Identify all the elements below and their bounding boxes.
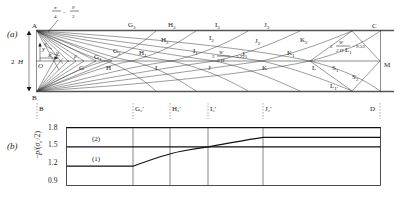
- node-I: I: [155, 64, 158, 72]
- ratio-right-num: W: [339, 40, 344, 45]
- svg-text:I2: I2: [209, 34, 214, 43]
- node-I3-sub: 3: [217, 25, 220, 30]
- svg-text:I1: I1: [193, 47, 198, 56]
- svg-text:S1: S1: [332, 64, 339, 73]
- y-axis-title: −p/(σe′/2): [33, 131, 43, 159]
- svg-text:K2: K2: [300, 36, 308, 45]
- node-row-3: G3 H3 I3 J3: [128, 21, 270, 30]
- node-J: J: [208, 64, 211, 72]
- svg-text:S2: S2: [352, 73, 359, 82]
- corner-label-M: M: [384, 61, 391, 69]
- origin-label-O: O: [38, 62, 43, 70]
- height-label-symbol: H: [17, 58, 24, 66]
- svg-text:J2: J2: [255, 37, 261, 46]
- node-S2-sub: 2: [356, 77, 359, 82]
- xtick-H2p: H₂′: [172, 105, 181, 113]
- svg-text:K1: K1: [287, 49, 295, 58]
- node-L2-sub: 1: [349, 50, 352, 55]
- ratio-right-den: 2 H: [336, 48, 344, 53]
- corner-label-B: B: [32, 94, 37, 102]
- apex-minus: −: [63, 10, 66, 15]
- plot-gridlines: [133, 128, 263, 186]
- svg-text:−p/(σe′/2): −p/(σe′/2): [33, 131, 43, 159]
- slip-line-field-diagram: 2 H y x O: [0, 0, 407, 110]
- series-1-label: (1): [92, 155, 101, 163]
- node-L1prime-mark: ′: [337, 86, 338, 91]
- axis-label-y: y: [41, 45, 46, 53]
- pressure-plot: B G₂′ H₂′ I₂′ J₂′ D 1.8 1.5 1.2 0.9 −p/(…: [0, 103, 407, 203]
- ytick-1-2: 1.2: [48, 158, 58, 167]
- node-H2-sub: 2: [166, 40, 169, 45]
- ylabel-half: /2): [33, 131, 42, 140]
- node-J2-sub: 2: [258, 41, 261, 46]
- node-K2-sub: 2: [305, 40, 308, 45]
- figure-root: (a) (b) 2 H y x O: [0, 0, 407, 203]
- apex-four: 4: [54, 14, 57, 19]
- node-S1-sub: 1: [336, 68, 339, 73]
- node-J1-sub: 1: [245, 54, 248, 59]
- ratio-mid-num: W: [219, 50, 224, 55]
- plot-frame: [67, 128, 381, 186]
- svg-text:I3: I3: [215, 21, 220, 30]
- ytick-0-9: 0.9: [48, 176, 58, 185]
- node-K: K: [262, 64, 267, 72]
- svg-text:J1: J1: [242, 50, 248, 59]
- apex-two: 2: [72, 14, 75, 19]
- svg-text:G2: G2: [113, 47, 121, 56]
- svg-text:H2: H2: [161, 36, 169, 45]
- angle-label-alpha: α: [44, 41, 47, 46]
- corner-label-A: A: [32, 22, 37, 30]
- ratio-right-equals: = 9.53: [352, 44, 365, 49]
- svg-text:G1: G1: [94, 53, 102, 62]
- height-label-number: 2: [11, 58, 15, 66]
- apex-pi: π: [54, 5, 57, 10]
- node-G3-sub: 3: [133, 25, 136, 30]
- angle-label-beta: β: [73, 54, 77, 59]
- ratio-mid-lead: 2: [212, 54, 215, 59]
- y-axis-tick-labels: 1.8 1.5 1.2 0.9: [48, 123, 58, 185]
- node-K1-sub: 1: [292, 53, 295, 58]
- xtick-D: D: [370, 105, 375, 113]
- corner-label-C: C: [372, 22, 377, 30]
- ytick-1-5: 1.5: [48, 140, 58, 149]
- xtick-G2p: G₂′: [135, 105, 144, 113]
- node-H: H: [106, 64, 111, 72]
- svg-text:L1′: L1′: [330, 82, 338, 91]
- node-J3-sub: 3: [267, 25, 270, 30]
- xtick-B: B: [39, 105, 44, 113]
- node-I2-sub: 2: [211, 38, 214, 43]
- series-2-label: (2): [92, 135, 101, 143]
- xtick-J2p: J₂′: [265, 105, 272, 113]
- apex-theta: θ: [72, 5, 75, 10]
- node-L: L: [312, 64, 316, 72]
- height-dimension-2H: [27, 31, 32, 92]
- svg-text:G3: G3: [128, 21, 136, 30]
- svg-text:J3: J3: [264, 21, 270, 30]
- node-G: G: [79, 64, 84, 72]
- apex-angle-expression: π 4 − θ 2: [48, 5, 79, 32]
- ytick-1-8: 1.8: [48, 123, 58, 132]
- projector-lines: [37, 103, 380, 119]
- node-H3-sub: 3: [173, 25, 176, 30]
- x-axis-tick-labels: B G₂′ H₂′ I₂′ J₂′ D: [39, 105, 375, 113]
- series-1-line: [67, 137, 381, 166]
- ratio-mid-den: 2 H: [217, 58, 225, 63]
- svg-text:H3: H3: [168, 21, 176, 30]
- xtick-I2p: I₂′: [210, 105, 217, 113]
